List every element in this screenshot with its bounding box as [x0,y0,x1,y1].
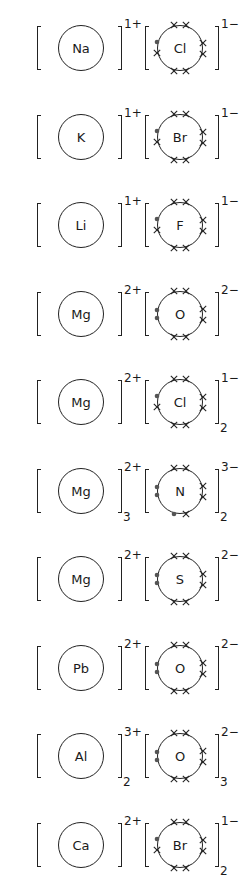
electron-dot-icon [155,493,160,498]
electron-marks [0,541,250,629]
electron-dot-icon [155,750,160,755]
compound-row-kbr: K 1+ Br 1− [0,99,250,187]
electron-marks [0,630,250,718]
electron-dot-icon [155,308,160,313]
electron-dot-icon [155,573,160,578]
compound-row-mgs: Mg 2+ S 2− [0,541,250,629]
electron-dot-icon [155,485,160,490]
electron-dot-icon [155,129,160,134]
electron-dot-icon [155,217,160,222]
electron-dot-icon [155,662,160,667]
compound-row-mgo: Mg 2+ O 2− [0,276,250,364]
electron-dot-icon [172,512,177,517]
compound-row-lif: Li 1+ F 1− [0,187,250,275]
compound-row-pbo: Pb 2+ O 2− [0,630,250,718]
electron-dot-icon [155,394,160,399]
electron-dot-icon [155,670,160,675]
compound-row-cabr2: Ca 2+ Br 1− 2 [0,807,250,891]
electron-marks [0,187,250,275]
electron-marks [0,718,250,806]
electron-dot-icon [155,316,160,321]
electron-dot-icon [155,40,160,45]
compound-row-nacl: Na 1+ Cl 1− [0,10,250,98]
compound-row-al2o3: Al 3+ 2 O 2− 3 [0,718,250,806]
electron-marks [0,453,250,541]
electron-marks [0,807,250,891]
electron-dot-icon [155,758,160,763]
compound-row-mg3n2: Mg 2+ 3 N 3− 2 [0,453,250,541]
electron-marks [0,276,250,364]
electron-marks [0,99,250,187]
electron-dot-icon [155,837,160,842]
compound-row-mgcl2: Mg 2+ Cl 1− 2 [0,364,250,452]
electron-dot-icon [155,581,160,586]
electron-marks [0,10,250,98]
electron-marks [0,364,250,452]
